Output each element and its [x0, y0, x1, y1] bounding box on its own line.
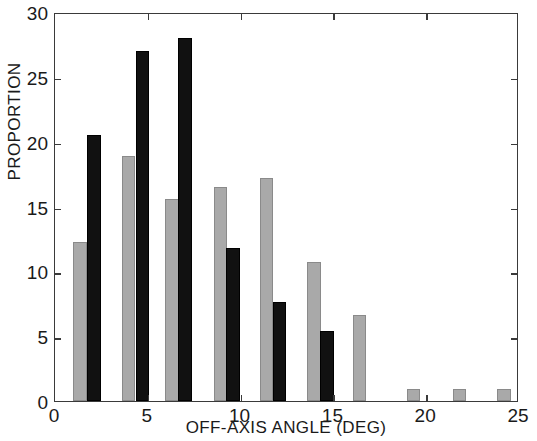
- bar-series-gray-8: [453, 389, 466, 401]
- y-tick-right-4: [511, 144, 517, 146]
- bar-series-gray-9: [497, 389, 510, 401]
- bar-series-gray-5: [307, 262, 320, 401]
- bars-layer: [55, 14, 517, 401]
- y-tick-right-1: [511, 338, 517, 340]
- y-tick-right-3: [511, 209, 517, 211]
- y-tick-left-3: [55, 209, 61, 211]
- x-tick-bottom-4: [426, 395, 428, 401]
- y-axis-title: PROPORTION: [6, 22, 23, 222]
- bar-series-black-1: [136, 51, 149, 401]
- bar-series-gray-7: [407, 389, 420, 401]
- bar-series-gray-3: [214, 187, 227, 401]
- x-axis-title: OFF-AXIS ANGLE (DEG): [54, 419, 518, 436]
- y-tick-label-0: 0: [0, 393, 48, 412]
- y-tick-right-2: [511, 273, 517, 275]
- bar-series-black-0: [87, 135, 100, 401]
- y-tick-left-5: [55, 79, 61, 81]
- y-tick-left-4: [55, 144, 61, 146]
- y-tick-label-6: 30: [0, 4, 48, 23]
- x-tick-top-3: [333, 14, 335, 20]
- x-tick-bottom-2: [241, 395, 243, 401]
- x-tick-top-2: [241, 14, 243, 20]
- bar-series-gray-0: [73, 242, 86, 401]
- bar-series-gray-2: [165, 199, 178, 401]
- x-tick-top-1: [148, 14, 150, 20]
- bar-series-black-3: [226, 248, 239, 401]
- y-tick-left-2: [55, 273, 61, 275]
- x-tick-bottom-3: [333, 395, 335, 401]
- y-tick-label-1: 5: [0, 328, 48, 347]
- x-tick-bottom-1: [148, 395, 150, 401]
- bar-series-gray-4: [260, 178, 273, 401]
- plot-area: [54, 13, 518, 402]
- y-tick-label-2: 10: [0, 263, 48, 282]
- y-tick-right-5: [511, 79, 517, 81]
- bar-series-gray-6: [353, 315, 366, 401]
- bar-series-black-2: [178, 38, 191, 401]
- bar-series-black-5: [320, 331, 333, 401]
- x-tick-top-4: [426, 14, 428, 20]
- bar-series-gray-1: [122, 156, 135, 401]
- histogram-figure: 051015202530 PROPORTION 0510152025 OFF-A…: [0, 0, 537, 441]
- bar-series-black-4: [273, 302, 286, 401]
- y-tick-left-1: [55, 338, 61, 340]
